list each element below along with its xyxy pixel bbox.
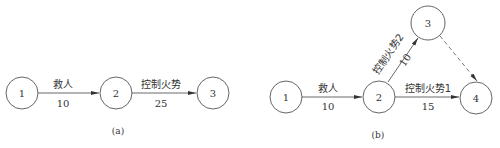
edge-label: 控制火势 bbox=[141, 78, 181, 90]
caption-a: (a) bbox=[112, 126, 124, 136]
node-b-4: 4 bbox=[460, 82, 492, 114]
node-label: 1 bbox=[19, 88, 25, 99]
network-diagrams: 1 2 3 救人 10 控制火势 25 (a) 1 2 3 bbox=[0, 0, 500, 148]
node-b-2: 2 bbox=[363, 81, 395, 113]
node-a-2: 2 bbox=[100, 77, 132, 109]
node-label: 3 bbox=[210, 88, 216, 99]
node-b-3: 3 bbox=[411, 6, 445, 40]
edge-label: 控制火势1 bbox=[405, 82, 451, 94]
diagram-b: 1 2 3 4 救人 10 控制火势2 10 控制火势1 15 (b) bbox=[270, 6, 492, 140]
node-a-3: 3 bbox=[197, 77, 229, 109]
node-label: 3 bbox=[425, 18, 431, 29]
edge-weight: 10 bbox=[57, 98, 70, 109]
node-label: 2 bbox=[113, 88, 119, 99]
edge-label: 控制火势2 bbox=[370, 31, 406, 76]
node-b-1: 1 bbox=[270, 81, 302, 113]
diagram-a: 1 2 3 救人 10 控制火势 25 (a) bbox=[6, 77, 229, 136]
edge-weight: 15 bbox=[422, 101, 435, 112]
node-label: 2 bbox=[376, 92, 382, 103]
edge-weight: 10 bbox=[322, 101, 335, 112]
edge-b-3-4-dummy bbox=[440, 36, 477, 81]
node-label: 1 bbox=[283, 92, 289, 103]
edge-weight: 25 bbox=[155, 98, 168, 109]
edge-label: 救人 bbox=[53, 78, 73, 90]
caption-b: (b) bbox=[372, 130, 385, 140]
node-label: 4 bbox=[473, 93, 479, 104]
node-a-1: 1 bbox=[6, 77, 38, 109]
edge-label: 救人 bbox=[318, 82, 338, 94]
